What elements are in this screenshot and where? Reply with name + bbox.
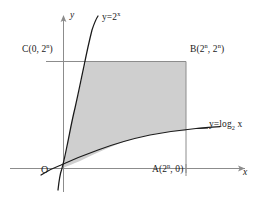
point-b-coords-head: (2: [196, 44, 204, 54]
point-a-coords-head: (2: [159, 164, 167, 174]
log-label-arg: x: [238, 119, 243, 129]
point-c-coords-head: (0, 2: [28, 44, 46, 54]
point-a-label: A(2n, 0): [152, 165, 183, 175]
point-b-label: B(2n, 2n): [190, 45, 224, 55]
exp-label-exponent: x: [117, 10, 120, 17]
point-a-name: A: [152, 164, 159, 174]
point-a-coords-tail: , 0): [170, 164, 183, 174]
point-b-coords-tail: ): [221, 44, 224, 54]
log-label-fn: log: [219, 119, 231, 129]
logarithmic-curve-label: y=log2 x: [209, 120, 242, 130]
figure-canvas: [0, 0, 264, 201]
y-axis-label: y: [70, 11, 74, 21]
exponential-curve-label: y=2x: [102, 13, 120, 23]
point-b-coords-mid: , 2: [208, 44, 218, 54]
leader-line-log: [196, 128, 208, 129]
point-c-coords-tail: ): [50, 44, 53, 54]
x-axis-label: x: [243, 168, 247, 178]
figure-container: y x O C(0, 2n) B(2n, 2n) A(2n, 0) y=2x y…: [0, 0, 264, 201]
point-c-label: C(0, 2n): [22, 45, 53, 55]
origin-label: O: [41, 165, 48, 175]
